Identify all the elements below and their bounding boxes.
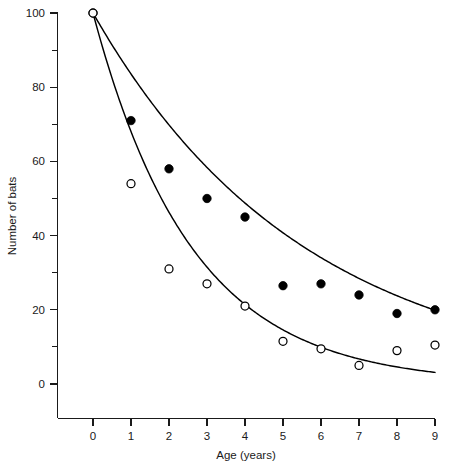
scatter-plot-canvas: 020406080100 0123456789 Age (years) Numb… <box>0 0 450 472</box>
x-tick-label-2: 2 <box>166 430 172 442</box>
data-point-open-circles-x5 <box>279 337 287 345</box>
data-point-open-circles-x6 <box>317 345 325 353</box>
x-axis-title: Age (years) <box>216 449 276 461</box>
x-axis: 0123456789 <box>58 419 439 443</box>
x-tick-label-1: 1 <box>128 430 134 442</box>
data-point-filled-circles-x3 <box>203 194 211 202</box>
y-axis: 020406080100 <box>26 7 58 418</box>
x-tick-label-3: 3 <box>204 430 210 442</box>
y-tick-label-100: 100 <box>26 7 45 19</box>
data-point-open-circles-x7 <box>355 361 363 369</box>
data-point-filled-circles-x9 <box>431 306 439 314</box>
y-axis-title: Number of bats <box>6 176 18 255</box>
data-point-filled-circles-x7 <box>355 291 363 299</box>
y-tick-label-40: 40 <box>32 230 45 242</box>
lower-survival-curve <box>93 13 435 372</box>
data-point-filled-circles-x4 <box>241 213 249 221</box>
y-tick-label-60: 60 <box>32 155 45 167</box>
y-tick-label-20: 20 <box>32 304 45 316</box>
x-tick-label-5: 5 <box>280 430 286 442</box>
data-point-open-circles-x0 <box>89 9 97 17</box>
x-tick-label-6: 6 <box>318 430 324 442</box>
data-point-open-circles-x9 <box>431 341 439 349</box>
data-point-filled-circles-x1 <box>127 116 135 124</box>
x-tick-label-4: 4 <box>242 430 249 442</box>
data-point-open-circles-x3 <box>203 280 211 288</box>
data-point-filled-circles-x5 <box>279 281 287 289</box>
x-tick-label-7: 7 <box>356 430 362 442</box>
data-point-filled-circles-x6 <box>317 280 325 288</box>
x-axis-major-ticks <box>93 419 435 427</box>
data-point-open-circles-x8 <box>393 347 401 355</box>
data-point-filled-circles-x2 <box>165 165 173 173</box>
data-point-filled-circles-x8 <box>393 309 401 317</box>
y-tick-label-80: 80 <box>32 81 45 93</box>
y-tick-label-0: 0 <box>39 378 45 390</box>
data-point-open-circles-x2 <box>165 265 173 273</box>
data-points-layer <box>89 9 439 370</box>
y-axis-minor-ticks <box>52 50 58 347</box>
x-tick-label-8: 8 <box>394 430 400 442</box>
chart-figure: 020406080100 0123456789 Age (years) Numb… <box>0 0 450 472</box>
x-tick-label-0: 0 <box>90 430 96 442</box>
y-axis-tick-labels: 020406080100 <box>26 7 45 390</box>
x-axis-tick-labels: 0123456789 <box>90 430 438 442</box>
fitted-curves-layer <box>93 13 435 372</box>
data-point-open-circles-x4 <box>241 302 249 310</box>
data-point-open-circles-x1 <box>127 180 135 188</box>
x-tick-label-9: 9 <box>432 430 438 442</box>
